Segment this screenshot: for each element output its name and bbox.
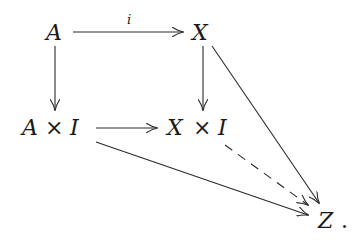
edge-label-i: i bbox=[127, 12, 131, 27]
node-z-period: . bbox=[341, 208, 348, 233]
node-z-label: Z bbox=[317, 208, 334, 233]
node-a-times-i-right: I bbox=[69, 115, 80, 140]
node-a: A bbox=[44, 20, 62, 45]
arrow-x-to-z bbox=[212, 46, 319, 203]
times-symbol: × bbox=[193, 115, 211, 140]
commutative-diagram: A X A × I X × I Z . i bbox=[0, 0, 362, 249]
node-a-times-i-left: A bbox=[20, 115, 38, 140]
dashed-arrow-x-times-i-to-z bbox=[225, 145, 308, 205]
node-a-times-i: A × I bbox=[20, 115, 80, 140]
node-x-times-i-right: I bbox=[217, 115, 228, 140]
node-x-times-i-left: X bbox=[165, 115, 184, 140]
arrow-a-times-i-to-z bbox=[96, 142, 308, 215]
node-x-times-i: X × I bbox=[165, 115, 228, 140]
node-x: X bbox=[190, 20, 209, 45]
node-z: Z . bbox=[317, 208, 348, 233]
times-symbol: × bbox=[45, 115, 63, 140]
